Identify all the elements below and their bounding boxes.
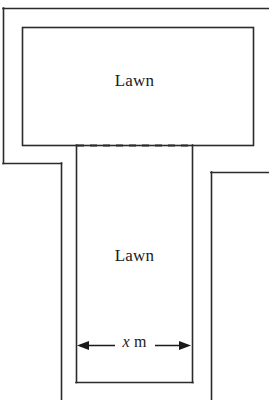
- dimension-unit: m: [134, 333, 147, 350]
- dimension-variable: x: [122, 333, 129, 350]
- lawn-diagram-figure: Lawn Lawn x m: [0, 0, 269, 400]
- dimension-label: x m: [0, 334, 269, 350]
- top-lawn-label: Lawn: [0, 72, 269, 89]
- bottom-lawn-label: Lawn: [0, 247, 269, 264]
